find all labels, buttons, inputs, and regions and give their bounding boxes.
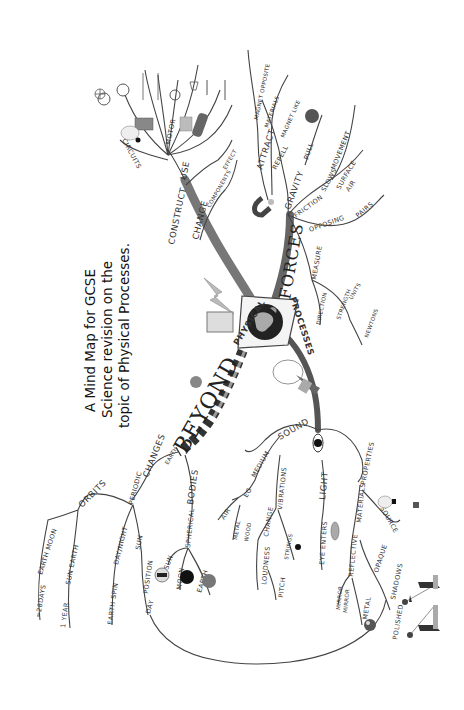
eg-label: EG bbox=[242, 486, 254, 499]
strings-label: STRINGS bbox=[283, 533, 294, 560]
shadow-diagram-icon bbox=[402, 575, 440, 638]
properties-label: PROPERTIES bbox=[359, 441, 376, 485]
materials-light-label: MATERIALS bbox=[355, 483, 367, 523]
pitch-label: PITCH bbox=[277, 577, 287, 599]
reflective-label: REFLECTIVE bbox=[347, 534, 359, 578]
measure-label: MEASURE bbox=[310, 245, 324, 280]
shadows-label: SHADOWS bbox=[389, 563, 405, 601]
light-label: LIGHT bbox=[317, 471, 330, 501]
change-sound-label: CHANGE bbox=[262, 506, 275, 537]
caption-line-2: Science revision on the bbox=[99, 261, 115, 418]
polished-ball-icon bbox=[364, 619, 376, 631]
sun-label: SUN bbox=[134, 534, 144, 550]
magnet-like-label: MAGNET LIKE bbox=[279, 99, 301, 139]
periodic-label: PERIODIC bbox=[127, 470, 144, 505]
position-label: POSITION bbox=[142, 559, 155, 594]
changes-label: CHANGES bbox=[141, 432, 168, 478]
construct-label: CONSTRUCT bbox=[166, 186, 188, 245]
bodies-label: BODIES bbox=[185, 468, 200, 505]
switch-device-icon bbox=[135, 118, 153, 130]
torch-icon bbox=[413, 502, 419, 508]
pull-label: PULL bbox=[302, 141, 315, 160]
orbits-label: ORBITS bbox=[76, 478, 108, 510]
earth-moon-label: EARTH MOON bbox=[36, 527, 59, 575]
earth-spin-label: EARTH SPIN bbox=[106, 582, 120, 625]
air-sound-label: AIR bbox=[219, 507, 233, 522]
metal-light-label: METAL bbox=[361, 596, 373, 620]
forces-label: FORCES bbox=[275, 221, 307, 300]
spherical-label: SPHERICAL bbox=[184, 508, 196, 548]
polished-label: POLISHED bbox=[391, 604, 405, 641]
wood-label: WOOD bbox=[243, 522, 252, 542]
1-year-label: 1 YEAR bbox=[59, 602, 71, 629]
caption-line-1: A Mind Map for GCSE bbox=[82, 269, 98, 412]
earth-globe-icon bbox=[190, 376, 202, 388]
loudness-label: LOUDNESS bbox=[260, 546, 272, 585]
caption: A Mind Map for GCSE Science revision on … bbox=[82, 243, 132, 428]
mind-map: A Mind Map for GCSE Science revision on … bbox=[0, 0, 464, 710]
mirror-hand-icon bbox=[331, 522, 339, 540]
friction-label: FRICTION bbox=[292, 193, 324, 219]
earth-icon bbox=[305, 109, 319, 123]
electricity-branch: CONSTRUCT USE CIRCUITS CHANGE COMPONENTS… bbox=[95, 65, 238, 245]
medium-label: MEDIUM bbox=[250, 450, 272, 479]
fly-icon bbox=[295, 544, 301, 550]
components-label: COMPONENTS bbox=[206, 169, 232, 209]
waves-branch: SOUND MEDIUM EG AIR METAL WOOD VIBRATION… bbox=[218, 360, 440, 640]
lamp-bulb-icon bbox=[378, 496, 392, 508]
gravity-label: GRAVITY bbox=[282, 169, 305, 211]
repell-label: REPELL bbox=[271, 144, 290, 171]
beyond-label: BEYOND bbox=[169, 352, 244, 458]
battery-device-icon bbox=[191, 112, 209, 138]
motor-device-icon bbox=[180, 117, 192, 131]
eye-enters-label: EYE ENTERS bbox=[318, 521, 329, 565]
mirror-reversed-label: MIRROR bbox=[342, 589, 350, 613]
earth-planet-icon bbox=[202, 574, 216, 588]
ammeter-symbol-icon bbox=[117, 84, 129, 96]
use-label: USE bbox=[178, 160, 191, 180]
pairs-label: PAIRS bbox=[354, 200, 375, 219]
circuits-label: CIRCUITS bbox=[120, 137, 143, 170]
light-bulb-icon bbox=[121, 126, 139, 140]
horseshoe-magnet-icon bbox=[255, 198, 275, 215]
28-days-label: ≈28DAYS bbox=[34, 584, 48, 618]
lightning-icon bbox=[204, 278, 234, 314]
moon-icon bbox=[180, 570, 194, 584]
motor-label: MOTOR bbox=[164, 118, 177, 145]
eye-icon bbox=[313, 434, 323, 452]
metal-sound-label: METAL bbox=[232, 519, 241, 540]
opaque-label: OPAQUE bbox=[372, 543, 389, 573]
source-label: SOURCE bbox=[378, 505, 400, 534]
caption-line-3: topic of Physical Processes. bbox=[116, 243, 132, 428]
crossed-circle-icon bbox=[95, 89, 105, 99]
sun-earth-label: SUN EARTH bbox=[64, 544, 80, 586]
opposing-label: OPPOSING bbox=[308, 214, 346, 234]
day-night-label: DAY/NIGHT bbox=[112, 525, 129, 565]
newtons-label: NEWTONS bbox=[363, 308, 379, 339]
